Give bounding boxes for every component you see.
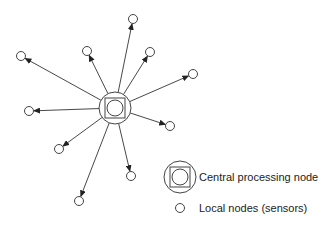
edge-arrow [89,55,108,93]
legend-local-label: Local nodes (sensors) [199,202,307,214]
local-node [129,15,138,24]
local-node [166,122,175,131]
legend-central-icon [164,161,196,193]
legend-local-icon [176,204,185,213]
local-node [189,70,198,79]
local-node [127,172,136,181]
edge-arrow [118,24,132,92]
central-processing-node [99,92,131,124]
legend-central-label: Central processing node [199,171,318,183]
edge-arrow [123,56,147,94]
edge-arrow [63,117,102,146]
local-node [75,197,84,206]
edge-arrow [81,123,109,196]
local-node [55,145,64,154]
star-network-diagram [0,0,324,225]
edge-arrow [25,58,101,100]
local-node [25,107,34,116]
edge-arrow [34,109,99,111]
edge-arrow [130,113,165,124]
local-node [17,52,26,61]
edge-arrow [119,124,130,172]
local-node [83,47,92,56]
edge-arrow [130,76,189,102]
local-node [146,48,155,57]
